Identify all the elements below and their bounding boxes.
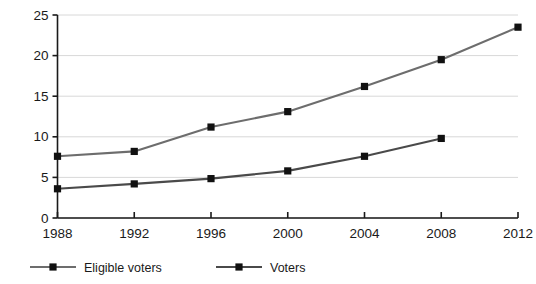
y-tick-label: 20 [33,48,48,63]
x-tick-label: 1996 [196,226,226,241]
x-tick-label: 2008 [426,226,456,241]
chart-background [0,0,536,284]
data-point-marker [131,148,138,155]
chart-canvas: 0510152025 1988199219962000200420082012 … [0,0,536,284]
data-point-marker [438,135,445,142]
legend-label: Eligible voters [84,261,162,275]
y-tick-label: 0 [41,211,49,226]
data-point-marker [131,180,138,187]
data-point-marker [361,153,368,160]
y-tick-label: 5 [41,170,49,185]
y-tick-label: 15 [33,89,48,104]
data-point-marker [361,83,368,90]
x-tick-label: 2012 [503,226,533,241]
data-point-marker [438,56,445,63]
legend-marker [235,263,242,270]
legend-label: Voters [270,261,305,275]
legend-marker [49,263,56,270]
data-point-marker [54,185,61,192]
data-point-marker [54,153,61,160]
x-tick-label: 1992 [119,226,149,241]
data-point-marker [284,108,291,115]
data-point-marker [207,175,214,182]
y-tick-label: 10 [33,129,48,144]
data-point-marker [514,24,521,31]
line-chart: 0510152025 1988199219962000200420082012 … [0,0,536,284]
data-point-marker [284,167,291,174]
x-tick-label: 2000 [273,226,303,241]
x-tick-label: 1988 [42,226,72,241]
x-tick-label: 2004 [349,226,380,241]
data-point-marker [207,123,214,130]
y-tick-label: 25 [33,8,48,23]
